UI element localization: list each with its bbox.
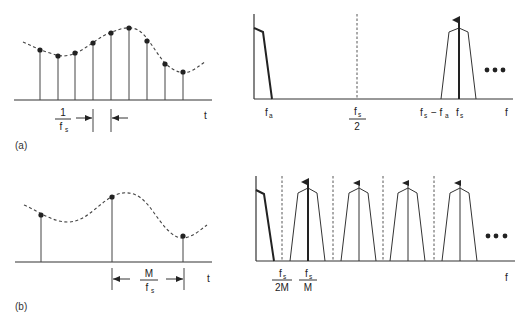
svg-text:a: a — [445, 112, 449, 119]
sampling-diagram: 1 f s t (a) f a f s 2 f s — [0, 0, 528, 322]
ellipsis-dots — [485, 68, 506, 73]
panel-b-time-domain: M f s t (b) — [15, 193, 212, 312]
sample-stems — [38, 194, 185, 262]
decimated-period-indicator: M f s — [112, 268, 184, 294]
tick-fs: f — [456, 107, 459, 118]
svg-text:f: f — [60, 121, 63, 132]
svg-text:s: s — [460, 112, 464, 119]
svg-text:a: a — [269, 112, 273, 119]
svg-text:f: f — [354, 106, 357, 117]
tick-fs-minus-fa: f s − f a — [420, 107, 449, 119]
time-axis-label: t — [204, 110, 207, 121]
svg-text:s: s — [424, 112, 428, 119]
svg-text:M: M — [304, 282, 312, 293]
time-axis-label: t — [207, 273, 210, 284]
svg-text:s: s — [283, 273, 287, 280]
frequency-axis-label: f — [505, 272, 508, 283]
svg-text:f: f — [305, 268, 308, 279]
svg-text:s: s — [151, 287, 155, 294]
baseband-spectrum — [254, 28, 272, 99]
panel-a-freq-domain: f a f s 2 f s − f a f s f — [254, 14, 513, 132]
svg-text:2: 2 — [354, 121, 360, 132]
svg-text:1: 1 — [60, 107, 66, 118]
tick-fs-over-2: f s 2 — [349, 106, 366, 132]
svg-text:f: f — [420, 107, 423, 118]
tick-fa: f — [265, 107, 268, 118]
sample-period-indicator: 1 f s — [55, 107, 128, 133]
panel-label-a: (a) — [15, 140, 27, 151]
image-spectra — [290, 182, 477, 261]
continuous-signal-curve — [23, 28, 206, 73]
frequency-axis-label: f — [505, 107, 508, 118]
svg-text:− f: − f — [431, 107, 443, 118]
svg-text:2M: 2M — [275, 282, 289, 293]
svg-text:M: M — [145, 268, 153, 279]
svg-text:s: s — [358, 111, 362, 118]
panel-b-freq-domain: f s 2M f s M f — [256, 176, 515, 293]
ellipsis-dots — [486, 234, 508, 239]
baseband-spectrum — [256, 190, 274, 261]
sample-stems — [37, 25, 185, 100]
tick-fs-over-2M: f s 2M — [272, 268, 292, 293]
svg-text:f: f — [146, 282, 149, 293]
svg-text:f: f — [279, 268, 282, 279]
panel-a-time-domain: 1 f s t (a) — [14, 25, 212, 151]
svg-text:s: s — [309, 273, 313, 280]
tick-fs-over-M: f s M — [299, 268, 317, 293]
panel-label-b: (b) — [15, 301, 27, 312]
svg-text:s: s — [65, 126, 69, 133]
continuous-signal-curve — [24, 193, 207, 238]
